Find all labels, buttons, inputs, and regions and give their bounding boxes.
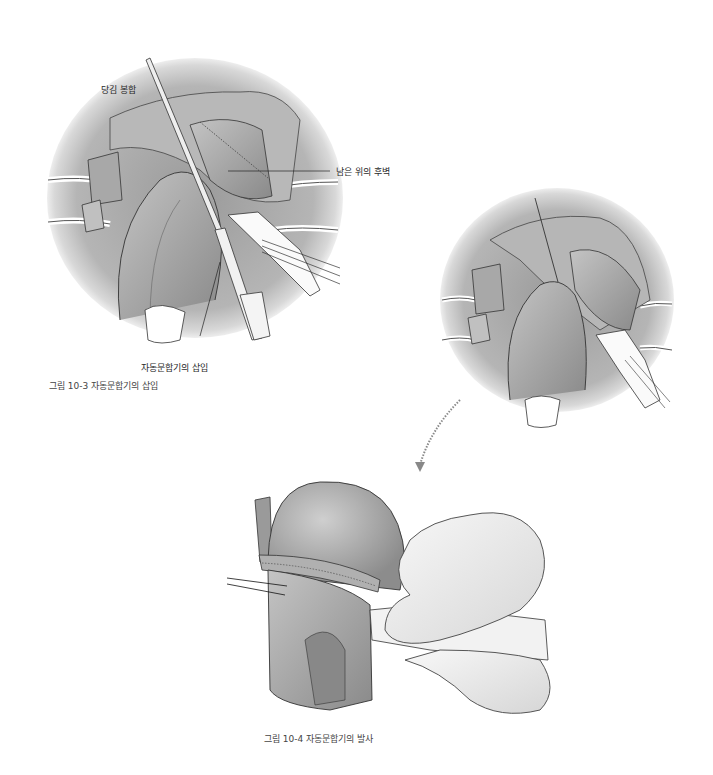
figure-10-3-caption: 그림 10-3 자동문합기의 삽입 (49, 379, 158, 392)
remnant-stomach-posterior-wall-label: 남은 위의 후벽 (336, 165, 390, 178)
stapler-insertion-label: 자동문합기의 삽입 (141, 361, 208, 374)
traction-suture-label: 당김 봉합 (101, 83, 136, 96)
figure-10-4-illustration (227, 482, 550, 714)
figure-10-4-caption: 그림 10-4 자동문합기의 발사 (264, 732, 373, 745)
figure-10-3-illustration (47, 58, 343, 343)
anastomosis-detail-illustration (415, 188, 674, 472)
